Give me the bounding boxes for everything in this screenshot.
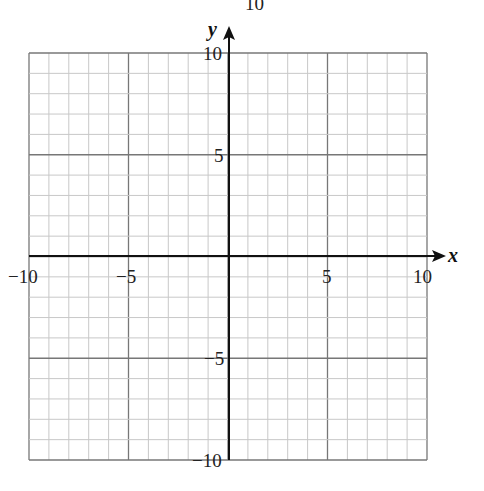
x-tick-neg5: −5 — [116, 266, 136, 287]
top-fragment-label: 10 — [245, 0, 264, 14]
y-axis-label: y — [206, 18, 217, 41]
y-tick-neg10: −10 — [192, 450, 222, 471]
x-axis-label: x — [447, 244, 458, 266]
axes — [29, 26, 446, 460]
x-tick-10: 10 — [413, 266, 432, 287]
x-tick-neg10: −10 — [8, 266, 38, 287]
x-tick-5: 5 — [322, 266, 332, 287]
y-tick-10: 10 — [203, 43, 222, 64]
y-tick-5: 5 — [214, 145, 224, 166]
y-tick-neg5: −5 — [204, 348, 224, 369]
coordinate-grid-chart: 10 x y −10 −5 5 10 10 5 −5 −10 — [0, 0, 484, 491]
